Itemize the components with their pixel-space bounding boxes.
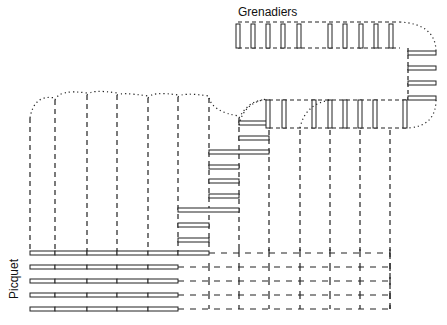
picquet-file-bar [55, 293, 87, 297]
picquet-label: Picquet [7, 259, 21, 299]
grenadier-file-bar [374, 24, 378, 48]
stair-file-bar [178, 223, 209, 227]
wheel-arc [408, 100, 436, 128]
picquet-file-bar [117, 265, 148, 269]
picquet-file-bar [178, 251, 209, 255]
wheel-arc [400, 22, 436, 52]
picquet-file-bar [87, 279, 117, 283]
picquet-file-bar [87, 307, 117, 311]
stair-file-bar [209, 150, 269, 154]
grenadier-file-bar [359, 24, 363, 48]
wheel-arc [209, 98, 239, 116]
picquet-file-bar [87, 293, 117, 297]
stair-file-bar [209, 165, 239, 169]
picquet-file-bar [55, 251, 87, 255]
stair-file-bar [178, 238, 209, 242]
picquet-file-bar [117, 307, 148, 311]
stair-file-bar [239, 121, 269, 125]
grenadier-file-bar [266, 100, 270, 128]
grenadier-file-bar [408, 96, 436, 100]
wheel-arc [55, 92, 87, 100]
grenadier-file-bar [408, 51, 436, 55]
formation-drawing [0, 0, 447, 325]
picquet-file-bar [148, 265, 178, 269]
picquet-file-bar [30, 265, 55, 269]
grenadier-file-bar [281, 24, 285, 48]
grenadiers-label: Grenadiers [238, 5, 297, 19]
picquet-file-bar [117, 251, 148, 255]
grenadier-file-bar [282, 100, 286, 128]
wheel-arc [30, 97, 55, 118]
picquet-file-bar [117, 279, 148, 283]
picquet-file-bar [55, 265, 87, 269]
picquet-file-bar [148, 279, 178, 283]
stair-file-bar [239, 136, 269, 140]
picquet-file-bar [148, 307, 178, 311]
grenadier-file-bar [328, 24, 332, 48]
picquet-file-bar [87, 251, 117, 255]
picquet-file-bar [55, 307, 87, 311]
formation-diagram: Grenadiers Picquet [0, 0, 447, 325]
picquet-file-bar [30, 307, 55, 311]
wheel-arc [239, 100, 269, 118]
grenadier-file-bar [373, 100, 377, 128]
picquet-file-bar [30, 251, 55, 255]
picquet-file-bar [55, 279, 87, 283]
picquet-file-bar [30, 279, 55, 283]
picquet-file-bar [148, 251, 178, 255]
wheel-arc [178, 94, 209, 97]
grenadier-file-bar [389, 24, 393, 48]
grenadier-file-bar [408, 66, 436, 70]
grenadier-file-bar [297, 24, 301, 48]
grenadier-file-bar [408, 81, 436, 85]
picquet-file-bar [148, 293, 178, 297]
stair-file-bar [209, 179, 239, 183]
picquet-file-bar [117, 293, 148, 297]
picquet-file-bar [87, 265, 117, 269]
grenadier-file-bar [266, 24, 270, 48]
picquet-file-bar [30, 293, 55, 297]
grenadier-file-bar [343, 100, 347, 128]
grenadier-file-bar [358, 100, 362, 128]
grenadier-file-bar [403, 100, 407, 128]
wheel-arc [148, 94, 178, 98]
wheel-arc [87, 91, 117, 95]
grenadier-file-bar [251, 24, 255, 48]
grenadier-file-bar [236, 24, 240, 48]
grenadier-file-bar [343, 24, 347, 48]
grenadier-file-bar [312, 100, 316, 128]
stair-file-bar [209, 194, 239, 198]
stair-file-bar [178, 208, 239, 212]
grenadier-file-bar [328, 100, 332, 128]
wheel-arc [117, 94, 148, 96]
